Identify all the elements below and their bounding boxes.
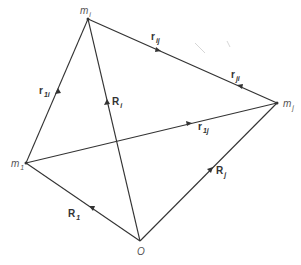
label-Rj-text: R	[216, 165, 223, 176]
artifact-mark	[227, 41, 230, 47]
label-R1: R1	[68, 209, 80, 219]
label-rij-sub: ij	[156, 37, 160, 44]
label-rji-sub: ji	[236, 75, 240, 82]
point-mj-icon	[276, 102, 279, 105]
label-Rj-sub: j	[224, 171, 226, 178]
label-r1j-sub: 1j	[203, 127, 209, 134]
label-rij: rij	[151, 32, 160, 42]
label-mi-sub: i	[89, 11, 91, 18]
arrow-r1i-icon	[55, 88, 61, 94]
point-m1-icon	[25, 162, 28, 165]
label-m1: m1	[11, 159, 24, 169]
arrow-Ri-icon	[104, 99, 110, 105]
label-rji: rji	[231, 70, 240, 80]
arrow-r1j-icon	[186, 121, 192, 126]
label-mi-text: m	[80, 5, 88, 16]
label-Ri: Ri	[112, 97, 122, 107]
label-mj: mj	[283, 99, 294, 109]
label-m1-sub: 1	[20, 164, 24, 171]
artifact-mark	[195, 43, 205, 53]
label-Ri-sub: i	[120, 102, 122, 109]
edge-m1-mj	[26, 103, 277, 163]
edge-O-m1	[26, 163, 140, 241]
label-Ri-text: R	[112, 96, 119, 107]
label-m1-text: m	[11, 158, 19, 169]
label-Rj: Rj	[216, 166, 226, 176]
label-R1-text: R	[68, 208, 75, 219]
arrow-rji-icon	[237, 84, 243, 89]
label-mj-text: m	[283, 98, 291, 109]
label-mj-sub: j	[292, 104, 294, 111]
label-r1i-sub: 1i	[44, 91, 50, 98]
label-r1j: r1j	[198, 122, 209, 132]
label-rij-text: r	[151, 31, 155, 42]
label-r1i-text: r	[39, 85, 43, 96]
label-R1-sub: 1	[76, 214, 80, 221]
label-origin-text: O	[137, 246, 145, 257]
label-r1i: r1i	[39, 86, 50, 96]
label-rji-text: r	[231, 69, 235, 80]
edge-mi-mj	[88, 19, 277, 103]
edge-O-mi	[88, 19, 140, 241]
label-r1j-text: r	[198, 121, 202, 132]
label-mi: mi	[80, 6, 91, 16]
label-origin: O	[137, 247, 145, 257]
